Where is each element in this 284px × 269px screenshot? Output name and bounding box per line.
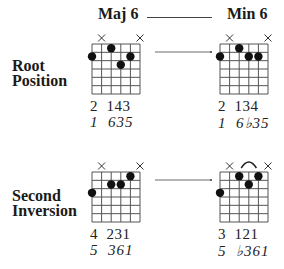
- finger-dot-icon: [126, 172, 134, 180]
- fingering-root-min6: 2 134: [218, 98, 259, 115]
- finger-dot-icon: [235, 44, 243, 52]
- fingering-inv-min6: 3 121: [218, 226, 259, 243]
- barre-arc-icon: [241, 162, 256, 168]
- finger-dot-icon: [216, 189, 224, 197]
- degrees-inv-maj6: 5 361: [90, 242, 134, 259]
- fingering-root-maj6: 2 143: [90, 98, 131, 115]
- degrees-root-maj6: 1 635: [90, 114, 134, 131]
- finger-dot-icon: [245, 52, 253, 60]
- finger-dot-icon: [117, 61, 125, 69]
- degrees-root-min6: 1 6♭35: [218, 114, 270, 132]
- degrees-inv-min6: 5 ♭361: [218, 242, 270, 260]
- finger-dot-icon: [117, 180, 125, 188]
- finger-dot-icon: [254, 172, 262, 180]
- finger-dot-icon: [107, 44, 115, 52]
- finger-dot-icon: [235, 172, 243, 180]
- fingering-inv-maj6: 4 231: [90, 226, 131, 243]
- finger-dot-icon: [254, 52, 262, 60]
- finger-dot-icon: [88, 189, 96, 197]
- arrow-head-icon: [210, 179, 212, 181]
- finger-dot-icon: [88, 52, 96, 60]
- finger-dot-icon: [107, 180, 115, 188]
- finger-dot-icon: [245, 180, 253, 188]
- finger-dot-icon: [216, 52, 224, 60]
- arrow-head-icon: [210, 51, 212, 53]
- finger-dot-icon: [126, 52, 134, 60]
